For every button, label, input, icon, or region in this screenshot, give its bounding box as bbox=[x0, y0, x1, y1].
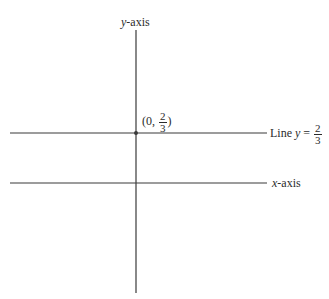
line-label-eq: = bbox=[300, 126, 313, 140]
point-fraction-den: 3 bbox=[159, 123, 167, 134]
line-fraction-den: 3 bbox=[314, 135, 322, 146]
diagram-canvas bbox=[0, 0, 329, 299]
line-label: Line y = 23 bbox=[270, 123, 323, 146]
point-fraction: 23 bbox=[159, 111, 167, 134]
x-axis-text: -axis bbox=[277, 176, 300, 190]
x-axis-label: x-axis bbox=[272, 177, 301, 189]
line-fraction: 23 bbox=[314, 123, 322, 146]
y-axis-text: -axis bbox=[126, 15, 149, 29]
y-axis-label: y-axis bbox=[121, 16, 150, 28]
line-label-prefix: Line bbox=[270, 126, 295, 140]
point-label-open: (0, bbox=[142, 114, 158, 128]
intercept-point bbox=[134, 131, 138, 135]
point-label-close: ) bbox=[168, 114, 172, 128]
point-label: (0, 23) bbox=[142, 111, 172, 134]
